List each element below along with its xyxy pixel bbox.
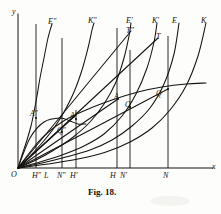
curve-flat-top-curve [18,83,206,168]
ordinate-foot-label: N″ [57,172,66,180]
figure-18-container: y x O E″K″E′T″K′ETK A″Q″A′AQ′Q H″LN″H′HN… [0,0,221,214]
curve-label: K″ [88,17,97,25]
curve-label: E [172,17,177,25]
ordinate-foot-label: H′ [70,172,78,180]
curve-label: E″ [48,18,56,26]
ordinate-foot-label: N [163,172,168,180]
y-axis-label: y [12,8,16,16]
point-label: Q′ [125,101,132,109]
point-label: A″ [30,110,38,118]
point-label: Q″ [57,127,66,135]
x-axis-label: x [212,163,216,171]
ordinate-foot-label: N′ [120,172,127,180]
figure-caption: Fig. 18. [88,188,116,197]
curve-label: K [201,17,206,25]
point-label: A′ [70,112,76,120]
marked-point [167,88,169,90]
figure-drawing [0,0,221,214]
origin-label: O [11,171,17,179]
ordinate-lines-group [36,24,168,168]
ordinate-foot-label: H [110,172,116,180]
curves-group [18,23,206,168]
curve-label: T″ [126,27,134,35]
point-label: A [114,93,119,101]
ordinate-foot-label: L [44,172,48,180]
ordinate-foot-label: H″ [32,172,41,180]
curve-label: T [156,33,160,41]
curve-label: E′ [126,17,133,25]
curve-label: K′ [152,17,159,25]
point-label: Q [156,90,161,98]
